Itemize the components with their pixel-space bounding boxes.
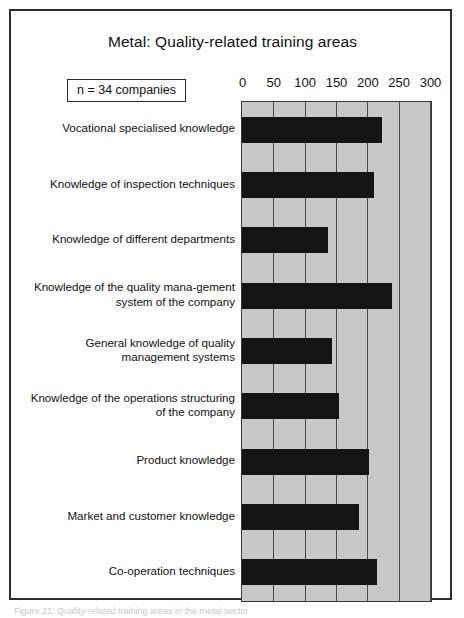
- bar: [242, 117, 382, 143]
- bar-band: [242, 213, 431, 268]
- category-label: Product knowledge: [23, 453, 235, 468]
- bar-band: [242, 157, 431, 212]
- bar: [242, 449, 369, 475]
- chart-title: Metal: Quality-related training areas: [11, 33, 454, 51]
- bar-band: [242, 489, 431, 544]
- bar: [242, 338, 332, 364]
- x-tick-label-300: 300: [420, 75, 442, 90]
- category-label: Co-operation techniques: [23, 564, 235, 579]
- x-axis-tick-labels: 050100150200250300: [11, 75, 454, 95]
- category-label: Knowledge of inspection techniques: [23, 177, 235, 192]
- bar: [242, 227, 328, 253]
- bar: [242, 283, 392, 309]
- bar: [242, 504, 359, 530]
- bar-band: [242, 102, 431, 157]
- bar-band: [242, 434, 431, 489]
- category-label: Knowledge of the quality mana-gement sys…: [23, 280, 235, 309]
- x-tick-label-50: 50: [267, 75, 281, 90]
- figure-page: Metal: Quality-related training areas n …: [0, 0, 464, 618]
- category-label: Knowledge of the operations structuring …: [23, 391, 235, 420]
- category-label: Market and customer knowledge: [23, 509, 235, 524]
- bar-band: [242, 379, 431, 434]
- x-tick-label-150: 150: [326, 75, 348, 90]
- figure-frame: Metal: Quality-related training areas n …: [9, 9, 452, 600]
- category-label: Knowledge of different departments: [23, 232, 235, 247]
- x-tick-label-0: 0: [239, 75, 246, 90]
- category-label-column: Vocational specialised knowledgeKnowledg…: [23, 101, 239, 602]
- bar: [242, 559, 377, 585]
- bar-band: [242, 323, 431, 378]
- x-tick-label-250: 250: [388, 75, 410, 90]
- bar: [242, 172, 374, 198]
- bar-band: [242, 545, 431, 600]
- bar-band: [242, 268, 431, 323]
- plot-area: [241, 101, 432, 602]
- x-tick-label-100: 100: [294, 75, 316, 90]
- bar: [242, 393, 339, 419]
- x-tick-label-200: 200: [357, 75, 379, 90]
- category-label: General knowledge of quality management …: [23, 336, 235, 365]
- figure-caption: Figure 21: Quality-related training area…: [14, 606, 444, 616]
- category-label: Vocational specialised knowledge: [23, 121, 235, 136]
